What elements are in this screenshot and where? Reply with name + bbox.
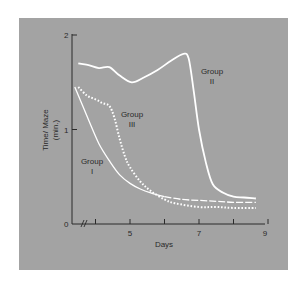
x-tick-label-9: 9 (263, 229, 268, 238)
annotation-group-3-line1: Group (121, 110, 144, 119)
annotation-group-1: Group I (81, 157, 104, 176)
y-axis (72, 34, 77, 224)
x-tick-label-5: 5 (128, 229, 133, 238)
line-chart: 0 1 2 5 7 9 Days Time/ Maze (min.) Group… (0, 0, 304, 284)
annotation-group-2-line1: Group (201, 67, 224, 76)
annotation-group-3-line2: III (129, 120, 136, 129)
annotation-group-1-line1: Group (81, 157, 104, 166)
y-axis-title: Time/ Maze (min.) (41, 109, 60, 151)
series-group-2-line (78, 54, 256, 199)
annotation-group-3: Group III (121, 110, 144, 129)
series-group-1-line (75, 87, 165, 197)
annotation-group-1-line2: I (91, 167, 93, 176)
x-axis-title: Days (155, 240, 173, 249)
y-tick-label-0: 0 (64, 220, 69, 229)
x-tick-label-7: 7 (197, 229, 202, 238)
annotation-group-2-line2: II (210, 77, 214, 86)
x-axis (72, 219, 268, 227)
y-tick-label-1: 1 (64, 126, 69, 135)
y-tick-label-2: 2 (64, 31, 69, 40)
y-axis-title-line1: Time/ Maze (41, 109, 50, 151)
y-axis-title-line2: (min.) (51, 119, 60, 140)
series-group-3-line (78, 87, 256, 208)
annotation-group-2: Group II (201, 67, 224, 86)
